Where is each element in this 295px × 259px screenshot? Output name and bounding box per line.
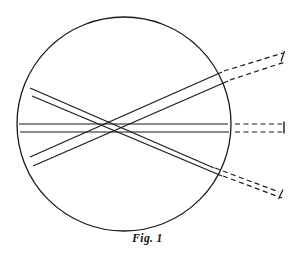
diagram-background bbox=[0, 0, 295, 259]
optical-diagram bbox=[0, 0, 295, 259]
figure-container: Fig. 1 bbox=[0, 0, 295, 259]
figure-caption: Fig. 1 bbox=[0, 232, 295, 244]
